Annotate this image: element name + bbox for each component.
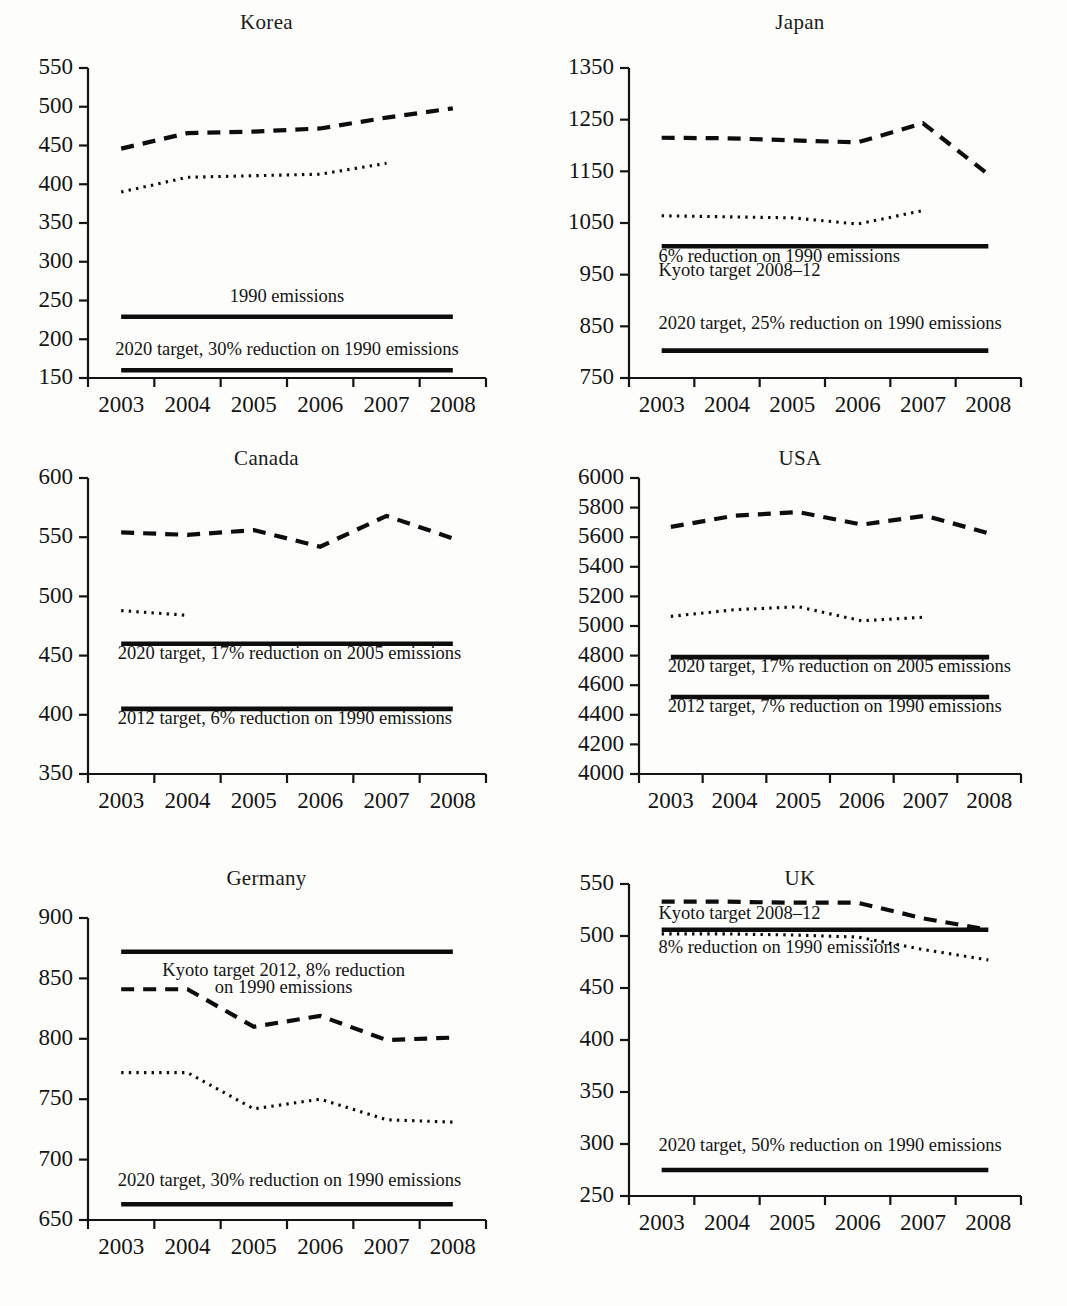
y-tick-label: 350 bbox=[580, 1078, 615, 1103]
series-line-dotted bbox=[121, 163, 386, 192]
chart-annotation: Kyoto target 2008–12 bbox=[658, 903, 820, 923]
x-tick-label: 2003 bbox=[98, 1234, 144, 1259]
y-tick-label: 850 bbox=[580, 313, 615, 338]
y-tick-label: 850 bbox=[39, 965, 74, 990]
x-tick-label: 2003 bbox=[98, 392, 144, 417]
x-tick-label: 2007 bbox=[364, 1234, 410, 1259]
x-tick-label: 2008 bbox=[430, 788, 476, 813]
y-tick-label: 650 bbox=[39, 1206, 74, 1231]
chart-panel-germany: Germany650700750800850900200320042005200… bbox=[0, 856, 533, 1292]
x-tick-label: 2007 bbox=[900, 1210, 946, 1235]
y-tick-label: 4200 bbox=[578, 731, 624, 756]
chart-panel-uk: UK25030035040045050055020032004200520062… bbox=[533, 856, 1067, 1292]
y-tick-label: 500 bbox=[39, 93, 74, 118]
chart-svg: 7508509501050115012501350200320042005200… bbox=[533, 0, 1061, 440]
small-multiples-grid: Korea15020025030035040045050055020032004… bbox=[0, 0, 1067, 1306]
series-line-dotted bbox=[662, 211, 923, 224]
y-tick-label: 250 bbox=[580, 1182, 615, 1207]
y-tick-label: 1150 bbox=[569, 158, 614, 183]
y-tick-label: 750 bbox=[39, 1085, 74, 1110]
x-tick-label: 2004 bbox=[165, 788, 212, 813]
y-tick-label: 350 bbox=[39, 209, 74, 234]
x-tick-label: 2004 bbox=[165, 392, 212, 417]
y-tick-label: 550 bbox=[580, 870, 615, 895]
chart-annotation: 1990 emissions bbox=[230, 286, 345, 306]
x-tick-label: 2007 bbox=[364, 392, 410, 417]
y-tick-label: 200 bbox=[39, 326, 74, 351]
x-tick-label: 2005 bbox=[775, 788, 821, 813]
y-tick-label: 6000 bbox=[578, 464, 624, 489]
x-tick-label: 2008 bbox=[966, 788, 1012, 813]
x-tick-label: 2008 bbox=[965, 1210, 1011, 1235]
chart-annotation: 2020 target, 30% reduction on 1990 emiss… bbox=[115, 339, 458, 359]
series-line-dotted bbox=[121, 611, 187, 616]
x-tick-label: 2003 bbox=[639, 1210, 685, 1235]
x-tick-label: 2005 bbox=[769, 392, 815, 417]
series-line-dashed bbox=[121, 108, 453, 148]
y-tick-label: 500 bbox=[580, 922, 615, 947]
x-tick-label: 2005 bbox=[769, 1210, 815, 1235]
y-tick-label: 500 bbox=[39, 583, 74, 608]
chart-svg: 1502002503003504004505005502003200420052… bbox=[0, 0, 526, 440]
x-tick-label: 2006 bbox=[835, 392, 881, 417]
y-tick-label: 5400 bbox=[578, 553, 624, 578]
y-tick-label: 150 bbox=[39, 364, 74, 389]
x-tick-label: 2007 bbox=[900, 392, 946, 417]
y-tick-label: 700 bbox=[39, 1146, 74, 1171]
chart-svg: 3504004505005506002003200420052006200720… bbox=[0, 436, 526, 836]
chart-annotation: 2020 target, 25% reduction on 1990 emiss… bbox=[658, 313, 1001, 333]
x-tick-label: 2006 bbox=[297, 392, 343, 417]
x-tick-label: 2004 bbox=[704, 392, 751, 417]
y-tick-label: 450 bbox=[580, 974, 615, 999]
chart-panel-korea: Korea15020025030035040045050055020032004… bbox=[0, 0, 533, 436]
x-tick-label: 2004 bbox=[712, 788, 759, 813]
y-tick-label: 300 bbox=[39, 248, 74, 273]
x-tick-label: 2006 bbox=[835, 1210, 881, 1235]
x-tick-label: 2006 bbox=[839, 788, 885, 813]
y-tick-label: 550 bbox=[39, 523, 74, 548]
chart-annotation: 8% reduction on 1990 emissions bbox=[658, 937, 900, 957]
axis-lines bbox=[88, 68, 486, 378]
chart-annotation: 2012 target, 6% reduction on 1990 emissi… bbox=[118, 708, 452, 728]
x-tick-label: 2007 bbox=[903, 788, 949, 813]
chart-annotation: on 1990 emissions bbox=[215, 977, 353, 997]
x-tick-label: 2005 bbox=[231, 1234, 277, 1259]
chart-annotation: 2020 target, 30% reduction on 1990 emiss… bbox=[118, 1170, 461, 1190]
chart-panel-canada: Canada3504004505005506002003200420052006… bbox=[0, 436, 533, 856]
y-tick-label: 400 bbox=[39, 171, 74, 196]
x-tick-label: 2008 bbox=[965, 392, 1011, 417]
x-tick-label: 2004 bbox=[165, 1234, 212, 1259]
y-tick-label: 4600 bbox=[578, 671, 624, 696]
series-line-dashed bbox=[662, 123, 989, 174]
y-tick-label: 250 bbox=[39, 287, 74, 312]
y-tick-label: 800 bbox=[39, 1025, 74, 1050]
y-tick-label: 750 bbox=[580, 364, 615, 389]
x-tick-label: 2008 bbox=[430, 392, 476, 417]
y-tick-label: 300 bbox=[580, 1130, 615, 1155]
chart-annotation: Kyoto target 2008–12 bbox=[658, 260, 820, 280]
y-tick-label: 1350 bbox=[568, 54, 614, 79]
x-tick-label: 2003 bbox=[648, 788, 694, 813]
series-line-dashed bbox=[121, 516, 453, 547]
y-tick-label: 1050 bbox=[568, 209, 614, 234]
x-tick-label: 2003 bbox=[98, 788, 144, 813]
chart-svg: 4000420044004600480050005200540056005800… bbox=[533, 436, 1061, 836]
x-tick-label: 2006 bbox=[297, 788, 343, 813]
chart-annotation: 2020 target, 17% reduction on 2005 emiss… bbox=[118, 643, 461, 663]
y-tick-label: 450 bbox=[39, 132, 74, 157]
y-tick-label: 4000 bbox=[578, 760, 624, 785]
y-tick-label: 5800 bbox=[578, 494, 624, 519]
axis-lines bbox=[88, 478, 486, 774]
y-tick-label: 550 bbox=[39, 54, 74, 79]
chart-svg: 2503003504004505005502003200420052006200… bbox=[533, 856, 1061, 1258]
x-tick-label: 2007 bbox=[364, 788, 410, 813]
y-tick-label: 4800 bbox=[578, 642, 624, 667]
y-tick-label: 1250 bbox=[568, 106, 614, 131]
y-tick-label: 350 bbox=[39, 760, 74, 785]
y-tick-label: 5600 bbox=[578, 523, 624, 548]
y-tick-label: 600 bbox=[39, 464, 74, 489]
chart-annotation: 2020 target, 17% reduction on 2005 emiss… bbox=[668, 656, 1011, 676]
x-tick-label: 2005 bbox=[231, 392, 277, 417]
y-tick-label: 4400 bbox=[578, 701, 624, 726]
chart-annotation: 2020 target, 50% reduction on 1990 emiss… bbox=[658, 1135, 1001, 1155]
